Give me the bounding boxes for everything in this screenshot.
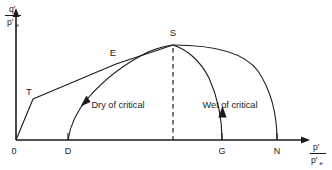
x-axis-label-denominator: p' [311,155,318,165]
x-axis-label-numerator: p' [313,142,320,152]
roscoe-surface-curve [173,45,277,140]
plot-canvas: T E S 0 D G N Dry of critical Wet of cri… [0,0,332,170]
region-label-wet: Wet of critical [203,100,258,110]
x-axis-label: p' p' e [310,142,326,166]
y-axis-label-denominator: p' [7,17,14,27]
hvorslev-surface-line [33,45,173,99]
x-axis-label-denominator-subscript: e [320,160,324,166]
region-label-dry: Dry of critical [91,100,144,110]
point-label-t: T [26,86,32,97]
point-label-e: E [110,47,116,58]
y-axis-label: q' p' e [5,4,21,28]
y-axis-label-denominator-subscript: e [16,22,20,28]
y-axis-label-numerator: q' [9,4,16,14]
point-label-s: S [170,27,176,38]
critical-state-diagram: T E S 0 D G N Dry of critical Wet of cri… [0,0,332,170]
dry-of-critical-stress-path [68,45,173,140]
tick-label-g: G [218,146,225,156]
x-axis-arrowhead [301,137,310,144]
wet-of-critical-stress-path [173,45,222,140]
axes-group [13,8,310,143]
tick-label-d: D [65,146,72,156]
tick-label-n: N [274,146,281,156]
no-tension-cutoff-line [16,99,33,140]
tick-label-origin: 0 [11,146,16,156]
